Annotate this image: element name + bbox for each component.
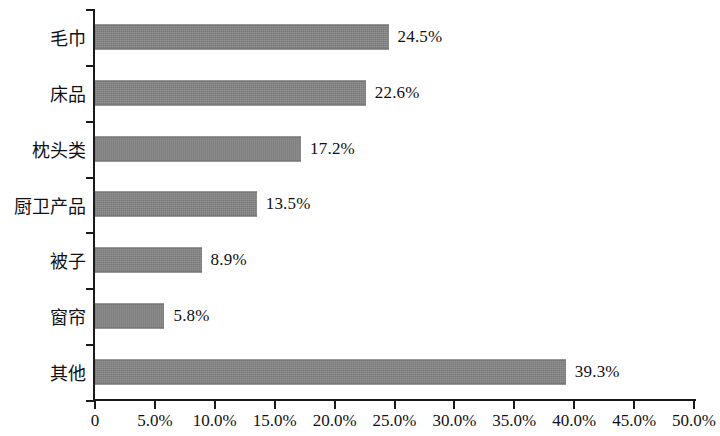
bar-row: 22.6% <box>95 65 694 121</box>
bar-value-label: 39.3% <box>575 362 620 382</box>
plot-area: 24.5%22.6%17.2%13.5%8.9%5.8%39.3% <box>95 9 694 400</box>
bar-row: 39.3% <box>95 344 694 400</box>
y-axis-tick <box>86 232 94 234</box>
bar-row: 17.2% <box>95 121 694 177</box>
y-axis-tick <box>86 65 94 67</box>
bar-row: 24.5% <box>95 9 694 65</box>
y-axis-label-床品: 床品 <box>0 80 86 106</box>
bar-value-label: 13.5% <box>266 194 311 214</box>
bar-value-label: 5.8% <box>173 306 209 326</box>
y-axis-tick <box>86 400 94 402</box>
bar-厨卫产品 <box>95 192 257 217</box>
x-axis-tick <box>633 401 635 409</box>
x-axis-tick-label: 15.0% <box>253 411 297 431</box>
x-axis-tick <box>453 401 455 409</box>
x-axis-tick <box>274 401 276 409</box>
x-axis-tick-label: 50.0% <box>672 411 716 431</box>
bar-value-label: 8.9% <box>211 250 247 270</box>
y-axis-tick <box>86 121 94 123</box>
x-axis-tick <box>334 401 336 409</box>
bar-value-label: 24.5% <box>398 27 443 47</box>
y-axis-label-毛巾: 毛巾 <box>0 24 86 50</box>
bar-其他 <box>95 360 566 385</box>
x-axis-tick <box>94 401 96 409</box>
y-axis-label-被子: 被子 <box>0 247 86 273</box>
x-axis-tick-label: 10.0% <box>193 411 237 431</box>
x-axis-tick-label: 25.0% <box>373 411 417 431</box>
x-axis-tick <box>573 401 575 409</box>
bar-床品 <box>95 80 366 105</box>
x-axis-tick-label: 20.0% <box>313 411 357 431</box>
y-axis-label-窗帘: 窗帘 <box>0 303 86 329</box>
y-axis-tick <box>86 288 94 290</box>
x-axis-tick-label: 5.0% <box>137 411 172 431</box>
y-axis-tick <box>86 177 94 179</box>
bar-row: 5.8% <box>95 288 694 344</box>
bar-chart: 24.5%22.6%17.2%13.5%8.9%5.8%39.3% 毛巾床品枕头… <box>0 0 720 436</box>
x-axis-tick <box>214 401 216 409</box>
x-axis-tick-label: 35.0% <box>492 411 536 431</box>
bar-value-label: 22.6% <box>375 83 420 103</box>
x-axis-tick <box>154 401 156 409</box>
x-axis-tick <box>513 401 515 409</box>
bar-row: 13.5% <box>95 177 694 233</box>
bar-窗帘 <box>95 304 164 329</box>
x-axis-tick-label: 0 <box>91 411 100 431</box>
y-axis-label-枕头类: 枕头类 <box>0 136 86 162</box>
x-axis-tick <box>693 401 695 409</box>
x-axis-tick-label: 45.0% <box>612 411 656 431</box>
y-axis-tick <box>86 344 94 346</box>
bar-被子 <box>95 248 202 273</box>
y-axis-label-其他: 其他 <box>0 359 86 385</box>
bar-枕头类 <box>95 136 301 161</box>
x-axis-tick-label: 40.0% <box>552 411 596 431</box>
y-axis-tick <box>86 9 94 11</box>
y-axis-label-厨卫产品: 厨卫产品 <box>0 192 86 218</box>
x-axis-tick <box>394 401 396 409</box>
bar-毛巾 <box>95 24 389 49</box>
x-axis-tick-label: 30.0% <box>432 411 476 431</box>
bar-row: 8.9% <box>95 232 694 288</box>
bar-value-label: 17.2% <box>310 139 355 159</box>
